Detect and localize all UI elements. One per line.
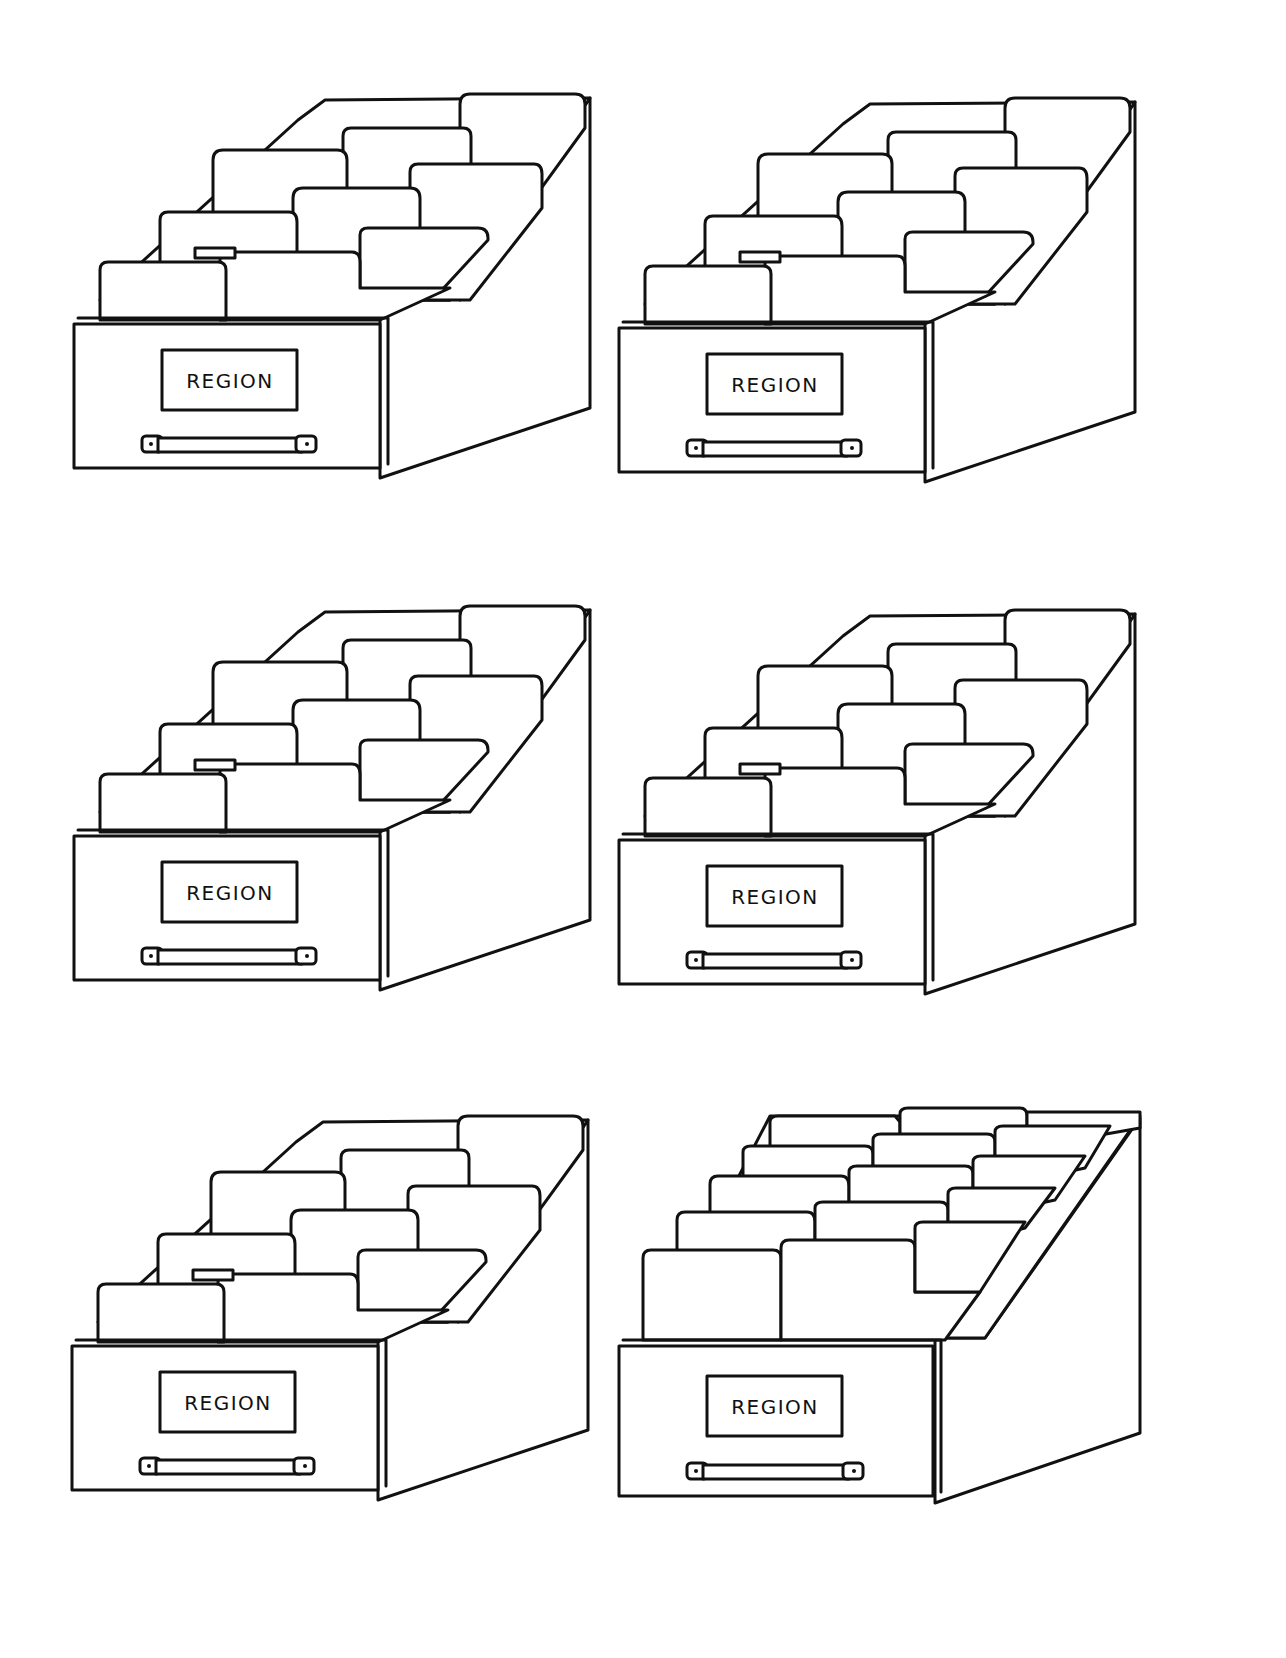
drawer-label: REGION — [731, 1395, 819, 1419]
drawer-illustration-canvas: REGION REGION REGION REGION REGION REGIO… — [0, 0, 1286, 1658]
card-drawer-3: REGION — [74, 606, 590, 990]
card-drawer-1: REGION — [74, 94, 590, 478]
drawer-label: REGION — [184, 1391, 272, 1415]
card-drawer-5: REGION — [72, 1116, 588, 1500]
card-drawer-6: REGION — [619, 1108, 1140, 1503]
card-drawer-4: REGION — [619, 610, 1135, 994]
drawer-label: REGION — [731, 373, 819, 397]
drawer-label: REGION — [186, 369, 274, 393]
drawer-label: REGION — [731, 885, 819, 909]
drawer-label: REGION — [186, 881, 274, 905]
card-drawer-2: REGION — [619, 98, 1135, 482]
